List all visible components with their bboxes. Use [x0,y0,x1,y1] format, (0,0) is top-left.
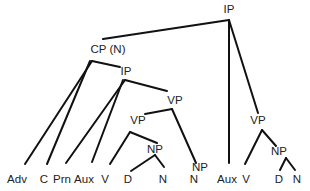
tree-edge [155,155,164,167]
node-vp-lower: VP [130,115,145,127]
tree-edge [92,61,120,67]
tree-edge [131,155,155,171]
node-np-standalone: NP [192,162,208,174]
tree-edge [280,158,286,170]
leaf-c: C [40,174,48,186]
leaf-d-right: D [275,174,283,186]
leaf-aux-right: Aux [217,174,237,186]
tree-edge [172,109,196,163]
node-vp-upper: VP [167,95,182,107]
leaf-n-right: N [293,174,301,186]
node-vp-right: VP [250,115,265,127]
tree-edge [145,109,172,114]
syntax-tree-diagram: IP CP (N) IP VP VP NP NP VP NP Adv C Prn… [0,0,310,191]
tree-edge [47,61,90,164]
node-cp-n: CP (N) [91,44,126,56]
tree-edge [110,132,130,164]
tree-edge [130,132,157,143]
leaf-aux-left: Aux [74,174,94,186]
node-ip-root: IP [224,4,235,16]
tree-edge [229,20,258,113]
tree-edge [103,20,229,39]
tree-edge [25,61,92,164]
tree-edge [125,80,167,91]
tree-edges [0,0,310,191]
leaf-adv: Adv [7,174,27,186]
node-np-lower: NP [147,144,163,156]
leaf-n-left: N [159,174,167,186]
node-np-right: NP [271,146,287,158]
leaf-v-right: V [242,174,250,186]
leaf-d-left: D [124,174,132,186]
tree-edge [245,130,262,164]
node-ip-inner: IP [121,66,132,78]
tree-edge [262,130,276,146]
leaf-n-middle: N [190,174,198,186]
leaf-prn: Prn [53,174,71,186]
leaf-v-left: V [101,174,109,186]
tree-edge [286,158,295,170]
